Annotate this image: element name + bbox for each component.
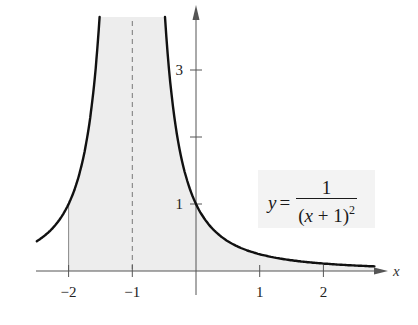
equation-label: y = 1 (x + 1)2 — [268, 178, 357, 227]
equation-lhs: y — [268, 192, 276, 214]
shaded-area — [69, 17, 375, 271]
equation-fraction: 1 (x + 1)2 — [296, 178, 357, 227]
x-axis-label: x — [392, 263, 400, 279]
equation-numerator: 1 — [320, 178, 334, 198]
x-tick-label: 2 — [320, 284, 328, 300]
denominator-variable: x — [304, 205, 312, 226]
x-tick-label: −1 — [124, 284, 140, 300]
y-axis-arrow-icon — [193, 5, 200, 20]
x-axis-arrow-icon — [374, 268, 388, 275]
equation-denominator: (x + 1)2 — [296, 199, 357, 227]
denominator-exponent: 2 — [349, 203, 355, 217]
function-plot: −2−11213x — [0, 0, 418, 325]
shaded-region — [69, 17, 375, 271]
denominator-rest: + 1) — [313, 205, 349, 226]
y-tick-label: 1 — [176, 196, 184, 212]
x-tick-label: 1 — [256, 284, 264, 300]
equation-equals: = — [279, 192, 290, 214]
y-tick-label: 3 — [176, 62, 184, 78]
x-tick-label: −2 — [61, 284, 77, 300]
